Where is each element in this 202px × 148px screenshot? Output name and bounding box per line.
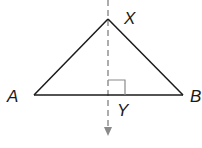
triangle-diagram: X A Y B — [0, 0, 202, 148]
arrowhead-down-icon — [104, 127, 112, 136]
label-y: Y — [117, 101, 130, 120]
label-b: B — [190, 87, 201, 106]
side-ax — [34, 19, 108, 95]
label-x: X — [123, 9, 136, 28]
label-a: A — [6, 87, 18, 106]
right-angle-marker — [108, 80, 125, 95]
side-xb — [108, 19, 183, 95]
